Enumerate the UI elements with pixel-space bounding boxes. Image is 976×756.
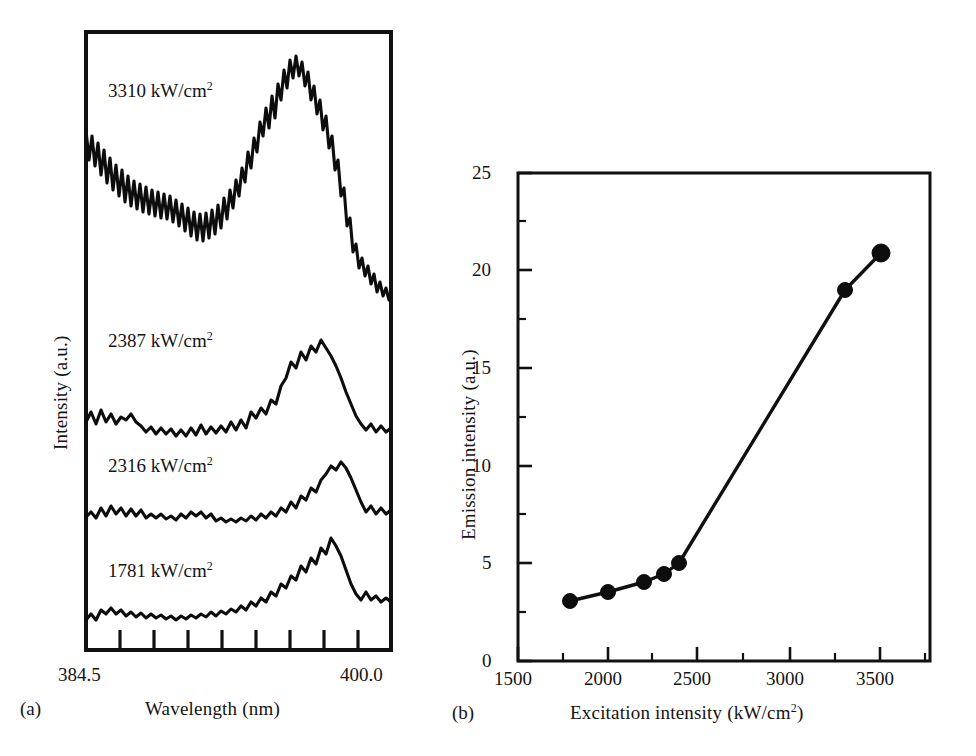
panel-b-frame xyxy=(518,173,930,661)
panel-b-tag: (b) xyxy=(452,702,474,724)
trace-label-2316: 2316 kW/cm2 xyxy=(108,455,213,477)
panel-b-xtick-2000: 2000 xyxy=(584,668,622,690)
datapoint xyxy=(672,556,687,571)
panel-b-ytick-25: 25 xyxy=(472,162,491,184)
panel-b-xtick-3000: 3000 xyxy=(766,668,804,690)
panel-b-ytick-20: 20 xyxy=(472,259,491,281)
datapoint xyxy=(563,594,578,609)
panel-b-dataline xyxy=(570,253,881,601)
panel-a-xticks xyxy=(120,630,358,650)
datapoint xyxy=(601,585,616,600)
panel-b-xtick-3500: 3500 xyxy=(856,668,894,690)
panel-b-xlabel: Excitation intensity (kW/cm2) xyxy=(570,702,803,724)
trace-label-3310: 3310 kW/cm2 xyxy=(108,80,213,102)
panel-a-tag: (a) xyxy=(20,698,41,720)
panel-b-xlabel-main: Excitation intensity (kW/cm xyxy=(570,702,791,723)
panel-b-ytick-0: 0 xyxy=(482,650,492,672)
panel-a-xtick-max: 400.0 xyxy=(340,664,383,686)
figure-container: 3310 kW/cm2 2387 kW/cm2 2316 kW/cm2 1781… xyxy=(0,0,976,756)
panel-b-ytick-5: 5 xyxy=(482,552,492,574)
panel-a-xtick-min: 384.5 xyxy=(58,664,101,686)
panel-a-ylabel: Intensity (a.u.) xyxy=(50,335,72,450)
panel-b-xlabel-close: ) xyxy=(797,702,804,723)
spectrum-trace-2387 xyxy=(86,340,391,436)
panel-b-ylabel: Emission intensity (a.u.) xyxy=(458,349,480,540)
datapoint xyxy=(657,567,672,582)
trace-label-2387: 2387 kW/cm2 xyxy=(108,330,213,352)
panel-a-xlabel: Wavelength (nm) xyxy=(145,698,280,720)
panel-b-xtick-1500: 1500 xyxy=(494,668,532,690)
datapoint xyxy=(637,575,652,590)
panel-a: 3310 kW/cm2 2387 kW/cm2 2316 kW/cm2 1781… xyxy=(0,0,440,756)
panel-b-xticks xyxy=(518,647,880,661)
panel-b-xtick-2500: 2500 xyxy=(673,668,711,690)
trace-label-1781: 1781 kW/cm2 xyxy=(108,560,213,582)
panel-b: 0 5 10 15 20 25 1500 2000 2500 3000 3500… xyxy=(430,0,976,756)
panel-b-plot xyxy=(430,0,976,700)
datapoint xyxy=(872,244,890,262)
datapoint xyxy=(838,283,853,298)
